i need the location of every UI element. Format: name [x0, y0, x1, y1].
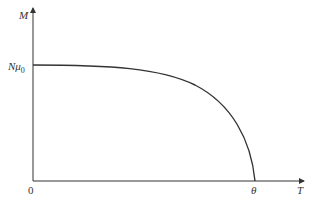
- y-axis-label: M: [19, 10, 28, 21]
- origin-label: 0: [28, 185, 34, 196]
- x-axis-label: T: [297, 185, 303, 196]
- magnetization-plot: [0, 0, 315, 204]
- x-tick-theta-label: θ: [251, 185, 256, 196]
- magnetization-curve: [33, 65, 255, 181]
- y-tick-main: Nμ: [8, 60, 21, 72]
- y-tick-label: Nμ0: [8, 61, 25, 75]
- y-tick-subscript: 0: [21, 66, 25, 75]
